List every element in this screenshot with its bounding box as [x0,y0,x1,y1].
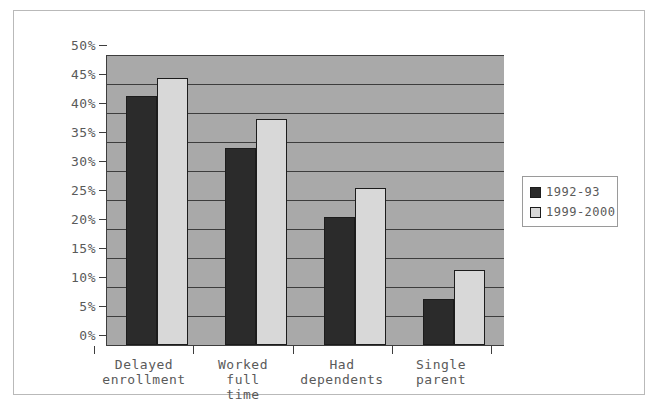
y-tick-15 [99,248,107,249]
y-tick-5 [99,306,107,307]
bar [157,78,188,345]
y-tick-label: 15% [52,242,96,255]
category-label: Single parent [371,357,511,387]
legend: 1992-931999-2000 [522,176,618,227]
bar [225,148,256,345]
y-tick-0 [99,335,107,336]
y-tick-label: 0% [52,329,96,342]
legend-item: 1992-93 [530,182,617,202]
bar [355,188,386,345]
y-tick-label: 25% [52,184,96,197]
y-tick-50 [99,45,107,46]
bar [126,96,157,345]
y-tick-45 [99,74,107,75]
y-tick-label: 35% [52,126,96,139]
legend-label: 1992-93 [546,186,600,198]
y-tick-30 [99,161,107,162]
y-tick-label: 10% [52,271,96,284]
x-tick [94,346,95,354]
x-tick [193,346,194,354]
x-axis-line [106,345,504,346]
x-tick [293,346,294,354]
y-tick-label: 50% [52,39,96,52]
y-tick-label: 45% [52,68,96,81]
y-tick-20 [99,219,107,220]
figure-frame: 50%45%40%35%30%25%20%15%10%5%0% Delayed … [13,10,645,395]
gridline-50 [107,55,504,56]
bar [423,299,454,345]
legend-label: 1999-2000 [546,206,616,218]
legend-swatch-icon [530,187,541,198]
x-tick [491,346,492,354]
y-tick-label: 40% [52,97,96,110]
y-tick-40 [99,103,107,104]
legend-swatch-icon [530,207,541,218]
y-axis-line [106,55,107,346]
y-tick-10 [99,277,107,278]
chart-page: 50%45%40%35%30%25%20%15%10%5%0% Delayed … [0,0,670,410]
y-tick-35 [99,132,107,133]
y-tick-label: 20% [52,213,96,226]
y-tick-label: 30% [52,155,96,168]
y-tick-25 [99,190,107,191]
y-tick-label: 5% [52,300,96,313]
legend-item: 1999-2000 [530,202,617,222]
bar [324,217,355,345]
x-tick [392,346,393,354]
y-axis-tick-labels: 50%45%40%35%30%25%20%15%10%5%0% [40,11,96,410]
bar [454,270,485,345]
plot-area [107,55,504,345]
bar [256,119,287,345]
